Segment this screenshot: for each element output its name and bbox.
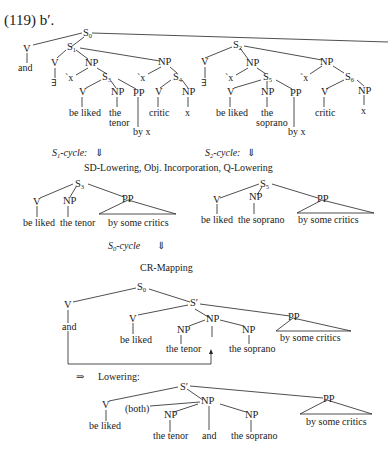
node-s0: S0 [83,27,92,39]
node-v-s3: V [79,86,87,97]
node-v-and: V [23,43,31,54]
leaf-by-x-2: by x [288,126,306,137]
leaf-by-x-1: by x [133,126,151,137]
node-pp: PP [288,311,300,322]
leaf-and: and [202,430,216,441]
node-np-s4: NP [182,86,196,97]
node-pp: PP [323,393,335,404]
node-v-s6: V [321,86,329,97]
node-np-s5: NP [261,86,275,97]
node-np-right: NP [245,409,259,420]
rules-applied-line: SD-Lowering, Obj. Incorporation, Q-Lower… [84,162,273,173]
leaf-x-1: x [185,107,190,118]
exists-symbol-1: ∃ [51,77,56,88]
node-s6: S6 [345,71,355,83]
node-pp-s3: PP [133,87,145,98]
node-s0: S0 [137,281,146,293]
tree-after-cr-mapping: S0 V and S′ V be liked NP NP the tenor N… [62,281,351,364]
node-s5: S5 [263,71,272,83]
s1-cycle-label: S1-cycle: [52,147,87,159]
leaf-be-liked: be liked [89,420,121,431]
syntax-derivation-diagram: (119) b′. [0,0,392,451]
leaf-the-tenor: the tenor [153,430,189,441]
var-x-1: ˋx [65,72,73,83]
node-np-coordinate: NP [206,313,220,324]
node-s-prime: S′ [190,297,198,308]
tree-s3-reduced: S3 V be liked NP the tenor PP by some cr… [23,178,176,228]
node-v: V [33,196,41,207]
node-v: V [102,399,110,410]
leaf-x-2: x [361,105,366,116]
leaf-be-liked: be liked [120,334,152,345]
node-s-prime: S′ [180,381,188,392]
leaf-by-some-critics: by some critics [108,217,169,228]
example-caption: (119) b′. [4,12,54,29]
s2-cycle-arrow: ⇓ [247,147,255,158]
node-np-right: NP [242,324,256,335]
var-x-2: ˋx [137,72,145,83]
node-np-s6: NP [358,85,372,96]
node-pp-s5: PP [290,87,302,98]
node-np-1: NP [85,57,99,68]
node-v-s5: V [227,86,235,97]
node-np-coordinate: NP [201,395,215,406]
leaf-by-some-critics: by some critics [306,416,367,427]
leaf-and: and [18,62,32,73]
node-np-critic-2: NP [320,56,334,67]
leaf-and: and [62,321,76,332]
s1-cycle-arrow: ⇓ [95,147,103,158]
node-v-s4: V [155,86,163,97]
node-np-critic-1: NP [158,56,172,67]
lowering-arrow: ⇒ [76,371,85,382]
node-s3-reduced: S3 [75,178,84,190]
leaf-the-tenor: the tenor [60,217,96,228]
both-marker: (both) [125,403,149,415]
tree-initial-structure: S0 V and S1 V ∃ NP ˋx S3 V be liked NP t… [18,27,388,137]
node-s4: S4 [173,71,183,83]
node-pp: PP [317,193,329,204]
cr-mapping-label: CR-Mapping [140,262,193,273]
leaf-be-liked: be liked [201,214,233,225]
node-v: V [129,313,137,324]
s2-cycle-label: S2-cycle: [205,147,240,159]
leaf-by-some-critics: by some critics [280,332,341,343]
exists-symbol-2: ∃ [201,77,206,88]
leaf-be-liked-2: be liked [216,107,248,118]
node-np: NP [249,191,263,202]
var-x-3: ˋx [225,72,233,83]
node-np-left: NP [177,324,191,335]
node-v-exists-1: V [51,57,59,68]
leaf-critic-1: critic [149,107,170,118]
leaf-tenor: tenor [109,117,130,128]
node-s3: S3 [102,71,111,83]
node-v-and: V [64,299,72,310]
tree-after-lowering: S′ V be liked (both) NP NP the tenor and… [89,381,372,441]
node-np-2: NP [246,57,260,68]
node-pp: PP [122,193,134,204]
s0-cycle-label: S0-cycle [108,240,141,252]
leaf-the-soprano: the soprano [229,343,275,354]
leaf-the-soprano: the soprano [231,430,277,441]
node-np-s3: NP [111,86,125,97]
leaf-be-liked-1: be liked [69,107,101,118]
node-v: V [213,194,221,205]
leaf-be-liked: be liked [23,217,55,228]
node-s5-reduced: S5 [260,178,269,190]
var-x-4: ˋx [300,72,308,83]
node-s2: S2 [233,39,242,51]
lowering-label: Lowering: [98,371,140,382]
node-s1: S1 [67,41,76,53]
s0-cycle-arrow: ⇓ [157,240,165,251]
node-np-left: NP [164,409,178,420]
leaf-the-tenor: the tenor [166,343,202,354]
leaf-the-soprano: the soprano [238,214,284,225]
leaf-critic-2: critic [315,107,336,118]
leaf-soprano: soprano [256,117,288,128]
tree-s5-reduced: S5 V be liked NP the soprano PP by some … [201,178,374,225]
node-v-exists-2: V [201,56,209,67]
node-np: NP [63,195,77,206]
leaf-by-some-critics: by some critics [298,214,359,225]
